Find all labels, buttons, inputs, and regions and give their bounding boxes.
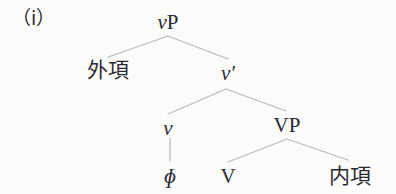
tree-node-V: V xyxy=(220,166,235,187)
tree-edge-VP-to-int_arg xyxy=(287,139,348,160)
tree-node-v-bar-prime: ′ xyxy=(230,61,235,85)
tree-node-phi-null-element: ɸ xyxy=(164,165,176,187)
tree-edge-vbar-to-VP xyxy=(226,89,286,111)
tree-node-vP: vP xyxy=(157,12,178,33)
tree-edge-vP-to-vbar xyxy=(168,36,228,59)
tree-node-vP-head: v xyxy=(157,10,166,34)
tree-edge-VP-to-V xyxy=(228,139,287,162)
tree-edge-vbar-to-v xyxy=(168,89,226,114)
syntax-tree-figure: （i） vP 外項 v′ v VP ɸ V 内項 xyxy=(0,0,396,194)
tree-node-internal-argument: 内項 xyxy=(329,166,372,187)
tree-node-external-argument: 外項 xyxy=(87,60,130,81)
tree-node-vP-tail: P xyxy=(167,10,179,34)
tree-node-v-bar-head: v xyxy=(221,61,230,85)
tree-node-little-v: v xyxy=(163,118,172,139)
tree-node-VP: VP xyxy=(274,115,301,136)
tree-node-v-bar: v′ xyxy=(221,63,235,84)
tree-edge-vP-to-ext_arg xyxy=(108,36,168,57)
